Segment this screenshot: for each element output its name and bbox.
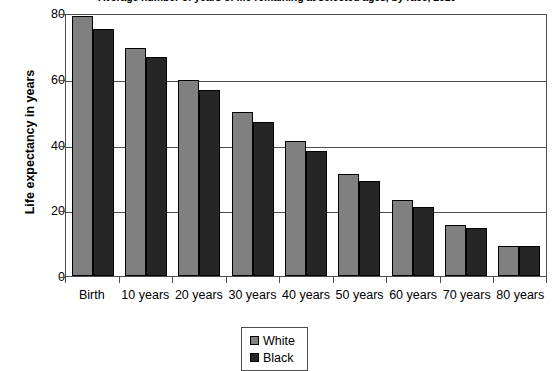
- bar-group: [66, 15, 119, 276]
- bar-white-20-years: [178, 80, 199, 276]
- bar-group: [173, 15, 226, 276]
- bar-white-70-years: [445, 225, 466, 276]
- x-tick-label-80-years: 80 years: [494, 288, 548, 302]
- x-tick-label-50-years: 50 years: [333, 288, 387, 302]
- bar-black-30-years: [253, 122, 274, 277]
- plot-area: [65, 14, 547, 277]
- legend-swatch-white: [250, 336, 259, 345]
- bar-black-birth: [93, 29, 114, 276]
- bar-group: [119, 15, 172, 276]
- legend-swatch-black: [250, 353, 259, 362]
- bar-black-40-years: [306, 151, 327, 276]
- x-axis-ticks: [65, 277, 547, 284]
- bar-group: [439, 15, 492, 276]
- x-tick-label-10-years: 10 years: [119, 288, 173, 302]
- x-tick-mark: [440, 277, 441, 283]
- chart-legend: WhiteBlack: [241, 327, 308, 371]
- bar-black-60-years: [413, 207, 434, 276]
- bar-group: [493, 15, 546, 276]
- bar-group: [386, 15, 439, 276]
- bar-black-20-years: [199, 90, 220, 276]
- x-tick-label-birth: Birth: [65, 288, 119, 302]
- x-tick-mark: [333, 277, 334, 283]
- bar-black-10-years: [146, 57, 167, 276]
- legend-entry-white: White: [250, 332, 295, 349]
- x-tick-mark: [279, 277, 280, 283]
- legend-label: White: [263, 334, 295, 348]
- x-tick-label-40-years: 40 years: [279, 288, 333, 302]
- x-tick-mark: [546, 277, 547, 283]
- bar-white-50-years: [338, 174, 359, 276]
- x-tick-mark: [493, 277, 494, 283]
- chart-title: Average number of years of life remainin…: [0, 0, 554, 3]
- bar-black-50-years: [359, 181, 380, 276]
- x-tick-label-20-years: 20 years: [172, 288, 226, 302]
- x-tick-mark: [119, 277, 120, 283]
- y-axis-ticks: 806040200: [0, 0, 65, 371]
- bar-white-birth: [72, 16, 93, 276]
- x-tick-mark: [65, 277, 66, 283]
- bar-white-30-years: [232, 112, 253, 276]
- bar-group: [226, 15, 279, 276]
- x-axis-labels: Birth10 years20 years30 years40 years50 …: [65, 288, 547, 302]
- x-tick-mark: [226, 277, 227, 283]
- legend-entry-black: Black: [250, 349, 295, 366]
- bar-white-10-years: [125, 48, 146, 276]
- bar-black-80-years: [519, 246, 540, 276]
- bar-black-70-years: [466, 228, 487, 276]
- x-tick-label-70-years: 70 years: [440, 288, 494, 302]
- legend-label: Black: [263, 351, 294, 365]
- x-tick-label-30-years: 30 years: [226, 288, 280, 302]
- x-tick-mark: [172, 277, 173, 283]
- x-tick-label-60-years: 60 years: [386, 288, 440, 302]
- bar-group: [279, 15, 332, 276]
- x-tick-mark: [386, 277, 387, 283]
- bar-group: [333, 15, 386, 276]
- bars-layer: [66, 15, 546, 276]
- bar-white-40-years: [285, 141, 306, 276]
- bar-white-60-years: [392, 200, 413, 276]
- bar-white-80-years: [498, 246, 519, 276]
